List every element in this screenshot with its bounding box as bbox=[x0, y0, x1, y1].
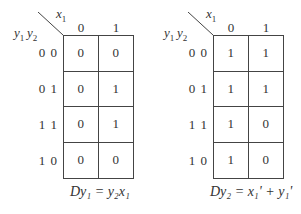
column-header: 0 bbox=[213, 20, 249, 36]
kmap-cell: 1 bbox=[214, 36, 249, 72]
equation: Dy₁ = y₂x₁ bbox=[70, 184, 160, 200]
kmap-cell: 0 bbox=[64, 36, 99, 72]
kmap-cell: 1 bbox=[99, 72, 134, 108]
kmap-cell: 0 bbox=[64, 143, 99, 179]
kmap-cell: 1 bbox=[249, 36, 284, 72]
column-header: 0 bbox=[63, 20, 99, 36]
row-header: 1 0 bbox=[22, 153, 58, 169]
kmap-cell: 1 bbox=[214, 72, 249, 108]
kmap-cell: 1 bbox=[99, 107, 134, 143]
column-header: 1 bbox=[248, 20, 284, 36]
kmap-dy2: x1 y1 y2 0 1 0 0 0 1 1 1 1 0 1 1 1 1 1 0… bbox=[150, 0, 300, 214]
kmap-cell: 0 bbox=[99, 143, 134, 179]
kmap-dy1: x1 y1 y2 0 1 0 0 0 1 1 1 1 0 0 0 0 1 0 1… bbox=[0, 0, 150, 214]
column-header: 1 bbox=[98, 20, 134, 36]
kmap-cell: 0 bbox=[64, 72, 99, 108]
equation: Dy₂ = x₁' + y₁' bbox=[210, 184, 300, 200]
row-header: 0 0 bbox=[172, 45, 208, 61]
row-header: 0 1 bbox=[172, 81, 208, 97]
kmap-cell: 0 bbox=[249, 143, 284, 179]
kmap-cell: 1 bbox=[249, 72, 284, 108]
row-header: 1 0 bbox=[172, 153, 208, 169]
row-header: 0 1 bbox=[22, 81, 58, 97]
row-header: 0 0 bbox=[22, 45, 58, 61]
row-header: 1 1 bbox=[22, 117, 58, 133]
kmap-cell: 1 bbox=[214, 107, 249, 143]
kmap-cell: 0 bbox=[64, 107, 99, 143]
row-variable-label: y1 y2 bbox=[14, 25, 37, 43]
kmap-cell: 0 bbox=[249, 107, 284, 143]
row-header: 1 1 bbox=[172, 117, 208, 133]
row-variable-label: y1 y2 bbox=[164, 25, 187, 43]
kmap-grid: 1 1 1 1 1 0 1 0 bbox=[213, 35, 284, 179]
kmap-cell: 0 bbox=[99, 36, 134, 72]
kmap-cell: 1 bbox=[214, 143, 249, 179]
kmap-grid: 0 0 0 1 0 1 0 0 bbox=[63, 35, 134, 179]
